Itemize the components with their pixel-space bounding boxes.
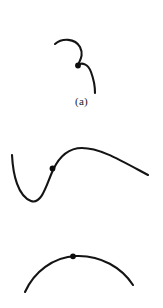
marker-point-c [70,253,76,259]
curve-a [55,40,95,93]
curve-canvas-b [0,110,163,222]
curve-c [25,256,133,292]
marker-point-a [75,63,81,69]
panel-a: (a) [0,0,163,110]
curve-b [12,148,148,201]
marker-point-b [50,166,56,172]
curve-canvas-a [0,0,163,110]
figure-sheet: (a) (b) (c) [0,0,163,308]
curve-canvas-c [0,222,163,308]
panel-label-a: (a) [0,95,163,107]
panel-c: (c) [0,222,163,308]
panel-b: (b) [0,110,163,222]
